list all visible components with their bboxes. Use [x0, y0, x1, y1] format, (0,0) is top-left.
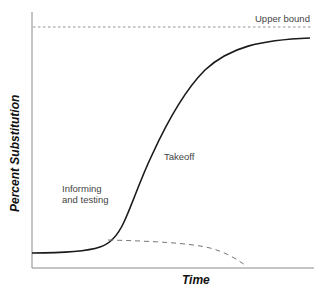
x-axis-title: Time — [182, 273, 210, 287]
s-curve-line — [32, 38, 310, 253]
upper-bound-label: Upper bound — [255, 13, 310, 24]
chart-canvas — [0, 0, 324, 290]
informing-label-line1: Informing — [62, 183, 102, 194]
failed-substitution-line — [108, 240, 245, 265]
informing-label-line2: and testing — [62, 194, 108, 205]
y-axis-title: Percent Substitution — [8, 102, 22, 212]
takeoff-label: Takeoff — [164, 151, 194, 162]
